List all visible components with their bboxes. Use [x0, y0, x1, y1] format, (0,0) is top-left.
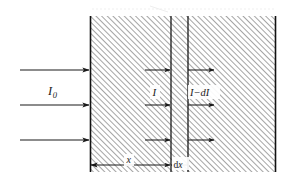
- transmitted-intensity-label: I−dI: [188, 85, 220, 99]
- absorbing-medium: [90, 16, 276, 172]
- slab-thickness-variable: x: [177, 160, 183, 170]
- slab-thickness-label: dx: [172, 157, 189, 170]
- physics-diagram-absorption-slab: I0 I I−dI x dx: [0, 0, 290, 184]
- depth-label: x: [124, 154, 134, 166]
- svg-text:I0: I0: [47, 84, 58, 100]
- intensity-at-x-label: I: [150, 85, 160, 99]
- incident-intensity-subscript: 0: [53, 90, 58, 100]
- svg-text:I−dI: I−dI: [189, 87, 210, 98]
- diagram-canvas: I0 I I−dI x dx: [0, 0, 290, 184]
- incident-intensity-label: I0: [47, 84, 58, 100]
- transmitted-intensity-suffix: I: [205, 87, 210, 98]
- depth-symbol: x: [126, 154, 132, 165]
- incident-beam-arrows: [20, 70, 89, 140]
- scan-artifact-top: [92, 6, 276, 12]
- svg-text:dx: dx: [174, 160, 184, 170]
- transmitted-intensity-prefix: I−d: [189, 87, 207, 98]
